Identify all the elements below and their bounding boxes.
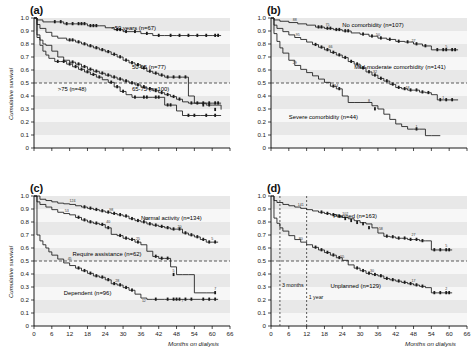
censor-mark <box>167 226 169 229</box>
censor-mark <box>439 291 441 294</box>
censor-mark <box>161 257 163 260</box>
censor-mark <box>193 114 195 117</box>
censor-mark <box>116 85 118 88</box>
censor-mark <box>338 53 340 56</box>
censor-mark <box>315 43 317 46</box>
censor-mark <box>176 298 178 301</box>
grid-band <box>34 135 230 148</box>
y-tick-label: 0.3 <box>257 283 266 290</box>
censor-mark <box>158 34 160 37</box>
y-tick-label: 1.0 <box>20 14 29 21</box>
censor-mark <box>445 248 447 251</box>
grid-band <box>34 274 230 287</box>
censor-mark <box>72 60 74 63</box>
censor-mark <box>110 81 112 84</box>
at-risk-count: 7 <box>181 299 183 303</box>
curve-label: Mild-moderate comorbidity (n=141) <box>354 64 446 70</box>
grid-band <box>34 196 230 209</box>
y-tick-label: 0.2 <box>257 118 266 125</box>
y-axis-label: Cumulative survival <box>8 68 14 120</box>
y-tick-label: 0.4 <box>20 270 29 277</box>
censor-mark <box>214 240 216 243</box>
y-tick-label: 0.6 <box>257 66 266 73</box>
censor-mark <box>155 71 157 74</box>
plot-area: 1.00.90.80.70.60.50.40.30.20.10887550275… <box>237 2 473 180</box>
at-risk-count: 28 <box>115 279 119 283</box>
censor-mark <box>386 277 388 280</box>
y-tick-label: 0.4 <box>20 92 29 99</box>
censor-mark <box>380 36 382 39</box>
panel-c: (c)Cumulative survival1.00.90.80.70.60.5… <box>0 180 236 358</box>
y-tick-label: 1.0 <box>257 192 266 199</box>
censor-mark <box>125 236 127 239</box>
censor-mark <box>454 48 456 51</box>
censor-mark <box>321 210 323 213</box>
at-risk-count: 95 <box>296 33 300 37</box>
y-tick-label: 0.8 <box>257 218 266 225</box>
censor-mark <box>101 71 103 74</box>
censor-mark <box>66 22 68 25</box>
x-tick-label: 18 <box>84 330 91 337</box>
curve-label: 50-65 (n=77) <box>132 64 166 70</box>
censor-mark <box>131 81 133 84</box>
censor-mark <box>208 101 210 104</box>
censor-mark <box>436 48 438 51</box>
curve-label: Require assistance (n=62) <box>73 251 142 257</box>
grid-band <box>271 313 467 326</box>
x-tick-label: 60 <box>209 330 216 337</box>
censor-mark <box>84 218 86 221</box>
censor-mark <box>374 107 376 110</box>
y-tick-label: 0.3 <box>257 105 266 112</box>
kaplan-meier-figure: (a)Cumulative survival1.00.90.80.70.60.5… <box>0 0 473 358</box>
y-tick-label: 0 <box>26 322 30 329</box>
y-tick-label: 0.1 <box>257 309 266 316</box>
at-risk-count: 141 <box>298 203 304 207</box>
at-risk-count: 5 <box>445 244 447 248</box>
at-risk-count: 18 <box>406 86 410 90</box>
censor-mark <box>196 34 198 37</box>
censor-mark <box>386 235 388 238</box>
censor-mark <box>92 73 94 76</box>
censor-mark <box>332 51 334 54</box>
censor-mark <box>425 44 427 47</box>
censor-mark <box>84 65 86 68</box>
x-tick-label: 54 <box>428 330 435 337</box>
censor-mark <box>69 62 71 65</box>
at-risk-count: 29 <box>293 61 297 65</box>
censor-mark <box>451 48 453 51</box>
y-tick-label: 0 <box>263 144 267 151</box>
censor-mark <box>131 217 133 220</box>
y-tick-label: 0.9 <box>20 205 29 212</box>
censor-mark <box>95 274 97 277</box>
censor-mark <box>131 288 133 291</box>
grid-band <box>34 96 230 109</box>
censor-mark <box>101 209 103 212</box>
censor-mark <box>134 96 136 99</box>
censor-mark <box>167 298 169 301</box>
censor-mark <box>389 38 391 41</box>
y-tick-label: 0 <box>263 322 267 329</box>
curve-label: No comorbidity (n=107) <box>342 22 403 28</box>
censor-mark <box>95 46 97 49</box>
censor-mark <box>173 75 175 78</box>
censor-mark <box>371 34 373 37</box>
censor-mark <box>149 222 151 225</box>
censor-mark <box>398 40 400 43</box>
x-tick-label: 30 <box>120 330 127 337</box>
at-risk-count: 2 <box>445 287 447 291</box>
censor-mark <box>185 231 187 234</box>
curve-label: 65-75 (n=100) <box>132 86 169 92</box>
censor-mark <box>398 86 400 89</box>
censor-mark <box>158 96 160 99</box>
at-risk-count: 7 <box>214 287 216 291</box>
x-tick-label: 42 <box>392 330 399 337</box>
x-tick-label: 48 <box>173 330 180 337</box>
y-tick-label: 0.4 <box>257 270 266 277</box>
censor-mark <box>380 274 382 277</box>
censor-mark <box>335 28 337 31</box>
censor-mark <box>188 114 190 117</box>
y-tick-label: 0.3 <box>20 105 29 112</box>
censor-mark <box>155 96 157 99</box>
x-tick-label: 12 <box>303 330 310 337</box>
curve-label: >75 (n=48) <box>58 86 87 92</box>
